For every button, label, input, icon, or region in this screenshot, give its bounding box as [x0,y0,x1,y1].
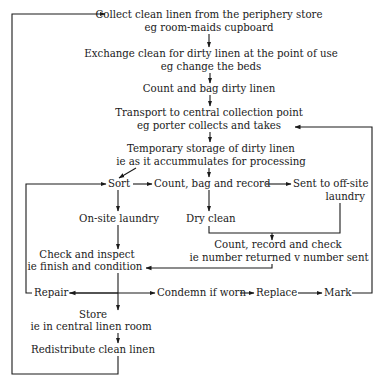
count-bag-dirty-line1: Count and bag dirty linen [143,83,276,94]
node-sent-offsite: Sent to off-site laundry [293,178,368,202]
exchange-line1: Exchange clean for dirty linen at the po… [84,48,338,59]
transport-line1: Transport to central collection point [115,107,304,118]
node-dry-clean: Dry clean [186,213,236,224]
exchange-line2: eg change the beds [161,61,262,72]
node-check-inspect: Check and inspect ie finish and conditio… [28,249,143,272]
node-replace: Replace [256,287,297,298]
linen-flow-diagram: Collect clean linen from the periphery s… [0,0,382,386]
node-condemn: Condemn if worn [157,287,246,298]
temp-storage-line1: Temporary storage of dirty linen [127,143,295,154]
store-line2: ie in central linen room [30,321,151,332]
node-count-record-check: Count, record and check ie number return… [189,239,369,263]
temp-storage-line2: ie as it accummulates for processing [116,156,306,167]
loop-redistribute-to-collect [12,14,118,374]
node-collect: Collect clean linen from the periphery s… [96,9,323,33]
collect-line1: Collect clean linen from the periphery s… [96,9,323,20]
node-count-bag-record: Count, bag and record [154,178,271,189]
arrow-storage-sort [119,168,136,178]
node-temp-storage: Temporary storage of dirty linen ie as i… [116,143,306,167]
store-line1: Store [79,309,107,320]
loop-repair-to-sort [26,184,106,293]
node-count-bag-dirty: Count and bag dirty linen [143,83,276,94]
node-onsite-laundry: On-site laundry [79,213,159,224]
node-sort: Sort [108,178,131,189]
node-repair: Repair [34,287,69,298]
node-exchange: Exchange clean for dirty linen at the po… [84,48,338,72]
node-mark: Mark [324,287,352,298]
node-transport: Transport to central collection point eg… [115,107,304,131]
sent-offsite-line2: laundry [325,191,365,202]
arrow-countcheck-inspect [146,264,272,268]
collect-line2: eg room-maids cupboard [145,22,274,33]
sent-offsite-line1: Sent to off-site [293,178,368,189]
node-store: Store ie in central linen room [30,309,151,332]
count-record-check-line1: Count, record and check [214,239,342,250]
check-inspect-line2: ie finish and condition [28,261,143,272]
check-inspect-line1: Check and inspect [39,249,135,260]
transport-line2: eg porter collects and takes [137,120,281,131]
loop-mark-to-transport [295,127,372,293]
node-redistribute: Redistribute clean linen [31,344,155,355]
count-record-check-line2: ie number returned v number sent [189,252,369,263]
